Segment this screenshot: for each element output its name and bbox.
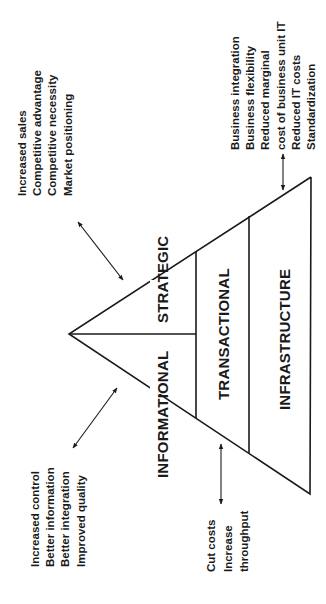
benefit-item: Market positioning	[61, 70, 76, 196]
benefit-item: Standardization	[304, 22, 319, 150]
benefit-item: Cut costs	[203, 511, 220, 572]
transactional-benefits: Cut costs Increase throughput	[203, 511, 253, 572]
benefit-item: Competitive advantage	[30, 70, 45, 196]
strategic-arrow	[78, 222, 123, 280]
benefit-item: throughput	[236, 511, 253, 572]
informational-arrow	[73, 388, 117, 448]
benefit-item: Increased control	[28, 467, 43, 567]
tier-label-strategic: STRATEGIC	[154, 236, 171, 323]
benefit-item: Increased sales	[15, 70, 30, 196]
benefit-item: Competitive necessity	[45, 70, 60, 196]
benefit-item: Reduced marginal	[258, 22, 273, 150]
strategic-benefits: Increased sales Competitive advantage Co…	[15, 70, 76, 196]
tier-label-transactional: TRANSACTIONAL	[215, 268, 232, 400]
benefit-item: Business integration	[228, 22, 243, 150]
informational-benefits: Increased control Better information Bet…	[28, 467, 89, 567]
benefit-item: Better integration	[58, 467, 73, 567]
benefit-item: Business flexibility	[243, 22, 258, 150]
benefit-item: Increase	[220, 511, 237, 572]
tier-label-infrastructure: INFRASTRUCTURE	[276, 269, 293, 410]
benefit-item: Improved quality	[74, 467, 89, 567]
benefit-item: Reduced IT costs	[289, 22, 304, 150]
tier-label-informational: INFORMATIONAL	[154, 351, 171, 478]
benefit-item: Better information	[43, 467, 58, 567]
infrastructure-benefits: Business integration Business flexibilit…	[228, 22, 319, 150]
pyramid-outline	[69, 177, 311, 494]
benefit-item: cost of business unit IT	[274, 22, 289, 150]
